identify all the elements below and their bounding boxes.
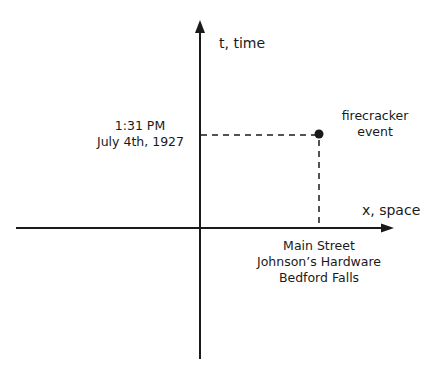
x-axis-label: x, space (362, 202, 420, 218)
event-label: firecracker event (325, 108, 425, 140)
event-label-line2: event (325, 124, 425, 140)
event-place-label: Main Street Johnson’s Hardware Bedford F… (249, 238, 389, 286)
event-time-label: 1:31 PM July 4th, 1927 (90, 118, 184, 150)
event-point-icon (315, 130, 324, 139)
event-time-line1: 1:31 PM (90, 118, 184, 134)
event-place-line1: Main Street (249, 238, 389, 254)
spacetime-diagram (0, 0, 427, 374)
t-axis-label: t, time (219, 35, 265, 51)
event-label-line1: firecracker (325, 108, 425, 124)
t-axis-arrowhead-icon (195, 20, 205, 33)
event-place-line3: Bedford Falls (249, 270, 389, 286)
event-place-line2: Johnson’s Hardware (249, 254, 389, 270)
x-axis-arrowhead-icon (381, 224, 394, 233)
event-time-line2: July 4th, 1927 (90, 134, 184, 150)
